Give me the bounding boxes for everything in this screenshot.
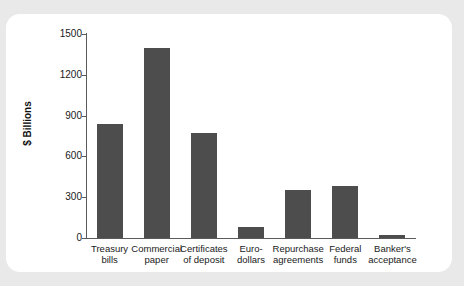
y-tick-mark xyxy=(82,75,87,76)
x-category-label: Banker's acceptance xyxy=(360,243,424,265)
y-tick-mark xyxy=(82,116,87,117)
y-tick-label: 900 xyxy=(42,111,82,121)
y-tick-label: 0 xyxy=(42,233,82,243)
bar xyxy=(238,227,264,238)
bar xyxy=(191,133,217,238)
bar xyxy=(379,235,405,238)
y-tick-mark xyxy=(82,197,87,198)
y-axis-ticks: 030060090012001500 xyxy=(30,0,82,286)
bar xyxy=(144,48,170,238)
y-tick-label: 1500 xyxy=(42,29,82,39)
y-tick-mark xyxy=(82,34,87,35)
y-tick-mark xyxy=(82,238,87,239)
y-tick-mark xyxy=(82,156,87,157)
x-axis-line xyxy=(86,238,416,239)
bar xyxy=(285,190,311,238)
y-tick-label: 1200 xyxy=(42,70,82,80)
bar xyxy=(332,186,358,238)
plot-area xyxy=(86,34,416,238)
y-axis-title: $ Billions xyxy=(22,84,33,164)
chart-figure: 030060090012001500 $ Billions Treasury b… xyxy=(0,0,464,286)
y-tick-label: 600 xyxy=(42,151,82,161)
y-tick-label: 300 xyxy=(42,192,82,202)
bar xyxy=(97,124,123,238)
